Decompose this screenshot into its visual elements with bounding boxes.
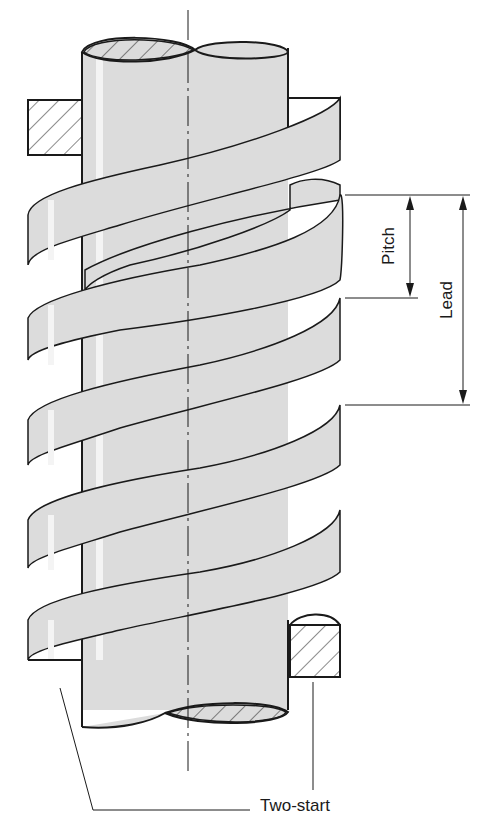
pitch-label: Pitch <box>379 227 399 265</box>
lead-label: Lead <box>437 281 457 319</box>
thread-helix <box>28 98 343 660</box>
bottom-thread-section <box>290 614 340 677</box>
two-start-thread-diagram <box>0 0 494 839</box>
thread-highlights <box>48 200 54 660</box>
two-start-label: Two-start <box>260 796 330 816</box>
